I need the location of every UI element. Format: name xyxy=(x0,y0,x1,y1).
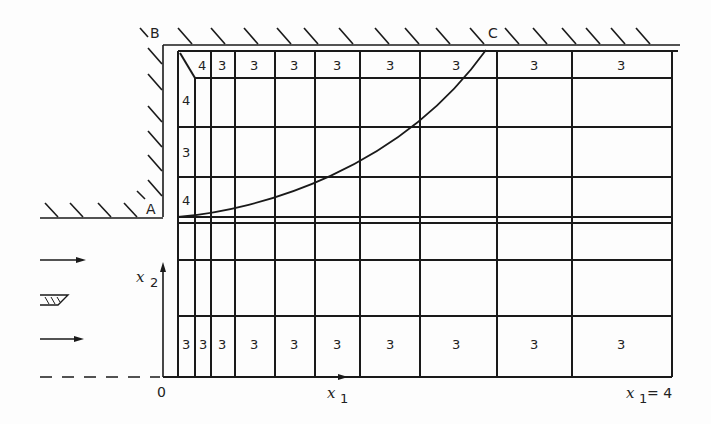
svg-text:3: 3 xyxy=(218,337,226,352)
diagram-canvas: B C A 0 x 2 x 1 x 1 = 4 4 3 3 3 3 3 3 3 … xyxy=(0,0,711,424)
axis-x2-sub: 2 xyxy=(150,275,158,290)
grid-diagram: B C A 0 x 2 x 1 x 1 = 4 4 3 3 3 3 3 3 3 … xyxy=(0,0,711,424)
label-c: C xyxy=(488,25,498,41)
svg-text:3: 3 xyxy=(199,337,207,352)
axis-x1-label: x xyxy=(327,384,336,402)
svg-text:3: 3 xyxy=(250,337,258,352)
grid-lines xyxy=(163,51,678,377)
svg-text:3: 3 xyxy=(617,58,625,73)
svg-text:3: 3 xyxy=(218,58,226,73)
label-b: B xyxy=(150,25,160,41)
left-column-values: 4 3 4 xyxy=(182,93,190,208)
svg-text:4: 4 xyxy=(198,58,206,73)
svg-text:3: 3 xyxy=(452,58,460,73)
x1-end-value: = 4 xyxy=(647,385,672,401)
label-a: A xyxy=(146,201,156,217)
axis-x2-label: x xyxy=(136,268,145,286)
x1-end-label: x xyxy=(626,384,635,402)
svg-text:3: 3 xyxy=(386,337,394,352)
svg-text:3: 3 xyxy=(290,337,298,352)
svg-text:3: 3 xyxy=(452,337,460,352)
bottom-row-values: 3 3 3 3 3 3 3 3 3 3 xyxy=(182,337,625,352)
svg-text:3: 3 xyxy=(333,58,341,73)
svg-text:3: 3 xyxy=(386,58,394,73)
svg-text:4: 4 xyxy=(182,193,190,208)
svg-text:3: 3 xyxy=(182,145,190,160)
axis-x1-sub: 1 xyxy=(340,391,348,406)
svg-text:3: 3 xyxy=(290,58,298,73)
svg-text:4: 4 xyxy=(182,93,190,108)
svg-text:3: 3 xyxy=(182,337,190,352)
svg-text:3: 3 xyxy=(333,337,341,352)
svg-text:3: 3 xyxy=(530,58,538,73)
svg-text:3: 3 xyxy=(617,337,625,352)
origin-label: 0 xyxy=(157,384,166,400)
svg-text:3: 3 xyxy=(530,337,538,352)
top-row-values: 4 3 3 3 3 3 3 3 3 xyxy=(198,58,625,73)
svg-text:3: 3 xyxy=(250,58,258,73)
curve-a-to-c xyxy=(178,50,486,217)
